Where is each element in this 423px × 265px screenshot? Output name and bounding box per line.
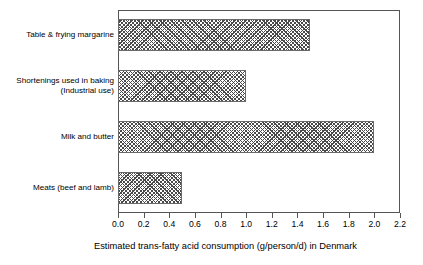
x-axis-title: Estimated trans-fatty acid consumption (… <box>0 240 423 252</box>
x-tick <box>169 213 170 218</box>
bar <box>118 121 374 153</box>
x-tick-label: 1.4 <box>291 219 303 230</box>
x-tick-label: 0.8 <box>215 219 227 230</box>
bar-chart: Table & frying margarineShortenings used… <box>0 0 423 265</box>
x-tick-label: 0.2 <box>138 219 150 230</box>
x-tick <box>374 213 375 218</box>
category-axis-labels: Table & frying margarineShortenings used… <box>0 10 114 213</box>
x-tick-label: 1.8 <box>343 219 355 230</box>
x-tick-label: 0.0 <box>112 219 124 230</box>
bar <box>118 19 310 51</box>
x-tick-label: 1.0 <box>240 219 252 230</box>
x-tick-label: 1.2 <box>266 219 278 230</box>
x-tick <box>297 213 298 218</box>
x-tick <box>118 213 119 218</box>
category-label: Meats (beef and lamb) <box>0 183 114 193</box>
x-tick-label: 0.4 <box>163 219 175 230</box>
x-axis-tick-labels: 0.00.20.40.60.81.01.21.41.61.82.02.2 <box>118 219 400 233</box>
bars-layer <box>118 10 400 213</box>
x-tick <box>272 213 273 218</box>
bar <box>118 172 182 204</box>
category-label: Milk and butter <box>0 132 114 142</box>
x-tick <box>246 213 247 218</box>
x-tick <box>349 213 350 218</box>
x-tick-label: 1.6 <box>317 219 329 230</box>
category-label: Table & frying margarine <box>0 30 114 40</box>
x-tick-label: 0.6 <box>189 219 201 230</box>
x-tick <box>144 213 145 218</box>
x-tick <box>195 213 196 218</box>
x-tick <box>323 213 324 218</box>
x-tick <box>400 213 401 218</box>
x-tick-label: 2.0 <box>368 219 380 230</box>
x-tick <box>221 213 222 218</box>
category-label: Shortenings used in baking (Industrial u… <box>0 76 114 96</box>
x-tick-label: 2.2 <box>394 219 406 230</box>
bar <box>118 70 246 102</box>
